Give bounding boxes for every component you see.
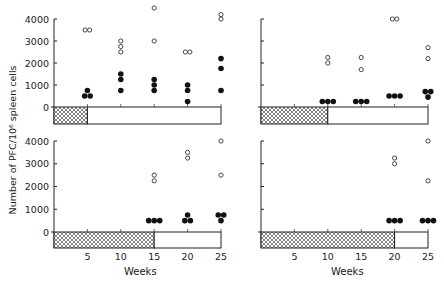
filled-circle-point xyxy=(215,212,221,218)
y-axis-label-text: Number of PFC/10⁶ spleen cells xyxy=(7,66,18,215)
filled-circle-point xyxy=(331,99,337,105)
filled-circle-point xyxy=(392,93,398,99)
x-tick-label: 5 xyxy=(291,251,297,262)
panel-top-left: 01000200030004000 xyxy=(25,6,224,124)
x-tick-label: 10 xyxy=(322,251,334,262)
open-circle-point xyxy=(152,6,156,10)
filled-circle-point xyxy=(422,89,428,95)
open-circle-point xyxy=(219,173,223,177)
open-circle-point xyxy=(83,28,87,32)
open-circle-point xyxy=(426,57,430,61)
filled-circle-point xyxy=(428,89,434,95)
open-circle-point xyxy=(152,173,156,177)
open-circle-point xyxy=(152,39,156,43)
filled-circle-point xyxy=(85,88,91,94)
y-axis-label: Number of PFC/10⁶ spleen cells xyxy=(2,40,22,240)
y-tick-label: 1000 xyxy=(25,204,49,215)
x-axis-label-left: Weeks xyxy=(124,266,157,277)
filled-circle-point xyxy=(397,218,403,224)
hatched-period-bar xyxy=(261,232,395,248)
filled-circle-point xyxy=(151,88,157,94)
y-tick-label: 1000 xyxy=(25,80,49,91)
filled-circle-point xyxy=(218,66,224,72)
open-circle-point xyxy=(390,17,394,21)
x-tick-label: 15 xyxy=(355,251,367,262)
filled-circle-point xyxy=(397,93,403,99)
open-circle-point xyxy=(395,17,399,21)
filled-circle-point xyxy=(425,94,431,100)
x-tick-label: 20 xyxy=(389,251,401,262)
filled-circle-point xyxy=(118,77,124,83)
open-period-bar xyxy=(395,232,428,248)
figure-panels: 0100020003000400001000200030004000510152… xyxy=(0,0,444,286)
open-circle-point xyxy=(426,179,430,183)
y-tick-label: 2000 xyxy=(25,58,49,69)
filled-circle-point xyxy=(185,99,191,105)
open-period-bar xyxy=(328,107,428,124)
open-circle-point xyxy=(88,28,92,32)
panel-top-right xyxy=(258,17,434,124)
filled-circle-point xyxy=(218,218,224,224)
open-circle-point xyxy=(426,139,430,143)
open-circle-point xyxy=(326,55,330,59)
filled-circle-point xyxy=(151,82,157,88)
filled-circle-point xyxy=(386,218,392,224)
open-circle-point xyxy=(186,156,190,160)
x-axis-label-right: Weeks xyxy=(331,266,364,277)
panel-bottom-left: 01000200030004000510152025 xyxy=(25,136,227,263)
y-tick-label: 2000 xyxy=(25,181,49,192)
open-circle-point xyxy=(119,39,123,43)
y-tick-label: 4000 xyxy=(25,136,49,147)
open-circle-point xyxy=(219,17,223,21)
filled-circle-point xyxy=(118,71,124,77)
y-tick-label: 3000 xyxy=(25,36,49,47)
filled-circle-point xyxy=(320,99,326,105)
filled-circle-point xyxy=(431,218,437,224)
filled-circle-point xyxy=(325,99,331,105)
filled-circle-point xyxy=(87,93,93,99)
x-tick-label: 25 xyxy=(215,251,227,262)
y-tick-label: 3000 xyxy=(25,158,49,169)
open-circle-point xyxy=(393,156,397,160)
open-period-bar xyxy=(87,107,221,124)
filled-circle-point xyxy=(353,99,359,105)
hatched-period-bar xyxy=(261,107,328,124)
filled-circle-point xyxy=(420,218,426,224)
open-circle-point xyxy=(188,50,192,54)
open-circle-point xyxy=(219,139,223,143)
filled-circle-point xyxy=(82,93,88,99)
filled-circle-point xyxy=(221,212,227,218)
filled-circle-point xyxy=(425,218,431,224)
filled-circle-point xyxy=(218,88,224,94)
filled-circle-point xyxy=(182,218,188,224)
open-circle-point xyxy=(393,162,397,166)
panel-bottom-right: 510152025 xyxy=(258,139,436,262)
open-circle-point xyxy=(186,150,190,154)
open-circle-point xyxy=(152,179,156,183)
filled-circle-point xyxy=(157,218,163,224)
open-circle-point xyxy=(183,50,187,54)
filled-circle-point xyxy=(386,93,392,99)
open-circle-point xyxy=(359,55,363,59)
filled-circle-point xyxy=(146,218,152,224)
filled-circle-point xyxy=(151,218,157,224)
x-tick-label: 15 xyxy=(148,251,160,262)
x-tick-label: 10 xyxy=(115,251,127,262)
open-period-bar xyxy=(154,232,221,248)
y-tick-label: 0 xyxy=(43,227,49,238)
hatched-period-bar xyxy=(54,107,87,124)
y-tick-label: 0 xyxy=(43,102,49,113)
filled-circle-point xyxy=(185,88,191,94)
filled-circle-point xyxy=(185,82,191,88)
filled-circle-point xyxy=(392,218,398,224)
open-circle-point xyxy=(119,44,123,48)
x-tick-label: 20 xyxy=(182,251,194,262)
open-circle-point xyxy=(359,68,363,72)
filled-circle-point xyxy=(188,218,194,224)
filled-circle-point xyxy=(118,88,124,94)
filled-circle-point xyxy=(218,56,224,62)
open-circle-point xyxy=(219,13,223,17)
x-tick-label: 25 xyxy=(422,251,434,262)
filled-circle-point xyxy=(185,212,191,218)
filled-circle-point xyxy=(151,77,157,83)
